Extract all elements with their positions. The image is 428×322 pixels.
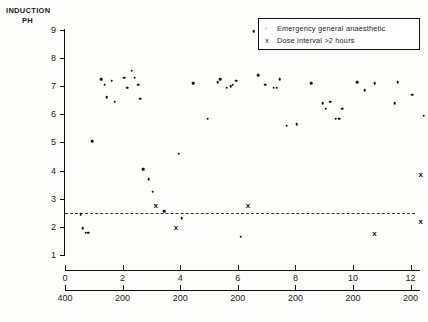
mg-tick-label-4: 200 bbox=[278, 294, 312, 303]
mg-tick-label-3: 200 bbox=[221, 294, 255, 303]
hours-tick-2 bbox=[123, 265, 124, 270]
ph-threshold-line bbox=[65, 213, 415, 214]
hours-tick-10 bbox=[353, 265, 354, 270]
data-point-emergency bbox=[180, 217, 183, 220]
data-point-emergency bbox=[334, 117, 337, 120]
data-point-emergency bbox=[100, 78, 103, 81]
data-point-emergency bbox=[219, 78, 222, 81]
data-point-emergency bbox=[163, 210, 166, 213]
hours-tick-12 bbox=[411, 265, 412, 270]
y-tick-1 bbox=[60, 255, 65, 256]
mg-tick-label-1: 200 bbox=[106, 294, 140, 303]
y-tick-label-4: 4 bbox=[42, 167, 56, 176]
data-point-emergency bbox=[231, 83, 234, 86]
data-point-emergency bbox=[324, 107, 327, 110]
data-point-emergency bbox=[82, 227, 85, 230]
data-point-emergency bbox=[310, 82, 313, 85]
data-point-dose-interval: x bbox=[418, 171, 422, 179]
data-point-emergency bbox=[147, 178, 150, 181]
y-tick-3 bbox=[60, 199, 65, 200]
data-point-emergency bbox=[275, 86, 278, 89]
data-point-emergency bbox=[87, 232, 90, 235]
mg-tick-label-6: 200 bbox=[394, 294, 428, 303]
mg-tick-10 bbox=[353, 285, 354, 290]
hours-tick-8 bbox=[295, 265, 296, 270]
hours-tick-label-6: 6 bbox=[223, 274, 253, 283]
y-tick-label-1: 1 bbox=[42, 251, 56, 260]
mg-tick-0 bbox=[65, 285, 66, 290]
data-point-emergency bbox=[152, 190, 155, 193]
data-point-emergency bbox=[133, 76, 136, 79]
data-point-emergency bbox=[110, 79, 113, 82]
data-point-emergency bbox=[131, 69, 134, 72]
data-point-dose-interval: x bbox=[153, 202, 157, 210]
data-point-emergency bbox=[278, 78, 281, 81]
y-tick-label-3: 3 bbox=[42, 195, 56, 204]
data-point-emergency bbox=[192, 82, 195, 85]
chart-figure: INDUCTION PH · Emergency general anaesth… bbox=[0, 0, 428, 322]
y-tick-4 bbox=[60, 171, 65, 172]
y-tick-label-7: 7 bbox=[42, 82, 56, 91]
hours-tick-label-4: 4 bbox=[165, 274, 195, 283]
hours-tick-6 bbox=[238, 265, 239, 270]
data-point-emergency bbox=[139, 98, 142, 101]
data-point-emergency bbox=[137, 83, 140, 86]
hours-tick-label-12: 12 bbox=[396, 274, 426, 283]
data-point-emergency bbox=[105, 96, 108, 99]
data-point-emergency bbox=[264, 83, 267, 86]
hours-axis-line bbox=[65, 270, 420, 271]
data-point-emergency bbox=[177, 152, 180, 155]
hours-tick-0 bbox=[65, 265, 66, 270]
data-point-emergency bbox=[103, 83, 106, 86]
y-tick-6 bbox=[60, 114, 65, 115]
mg-axis-line bbox=[65, 290, 420, 291]
chart-title-line1: INDUCTION bbox=[6, 6, 50, 15]
data-point-emergency bbox=[226, 86, 229, 89]
data-point-emergency bbox=[252, 30, 255, 33]
data-point-emergency bbox=[285, 124, 288, 127]
legend: · Emergency general anaesthetic x Dose i… bbox=[258, 18, 420, 50]
data-point-emergency bbox=[356, 81, 359, 84]
y-tick-label-5: 5 bbox=[42, 138, 56, 147]
data-point-dose-interval: x bbox=[246, 202, 250, 210]
data-point-emergency bbox=[338, 117, 341, 120]
chart-title-line2: PH bbox=[22, 16, 33, 25]
data-point-emergency bbox=[393, 102, 396, 105]
mg-tick-12 bbox=[411, 285, 412, 290]
data-point-emergency bbox=[239, 235, 242, 238]
data-point-emergency bbox=[422, 114, 425, 117]
data-point-emergency bbox=[329, 100, 332, 103]
data-point-emergency bbox=[363, 89, 366, 92]
data-point-emergency bbox=[113, 100, 116, 103]
legend-symbol-dot: · bbox=[265, 25, 268, 33]
y-tick-label-9: 9 bbox=[42, 26, 56, 35]
data-point-emergency bbox=[216, 81, 219, 84]
y-tick-label-6: 6 bbox=[42, 110, 56, 119]
data-point-emergency bbox=[257, 74, 260, 77]
data-point-dose-interval: x bbox=[372, 230, 376, 238]
data-point-emergency bbox=[396, 81, 399, 84]
mg-tick-6 bbox=[238, 285, 239, 290]
legend-symbol-x: x bbox=[265, 37, 269, 45]
hours-tick-4 bbox=[180, 265, 181, 270]
hours-tick-label-0: 0 bbox=[50, 274, 80, 283]
y-tick-label-8: 8 bbox=[42, 54, 56, 63]
mg-tick-label-5: 200 bbox=[336, 294, 370, 303]
hours-tick-label-8: 8 bbox=[280, 274, 310, 283]
data-point-emergency bbox=[206, 117, 209, 120]
mg-tick-label-2: 200 bbox=[163, 294, 197, 303]
data-point-emergency bbox=[123, 76, 126, 79]
data-point-emergency bbox=[321, 102, 324, 105]
legend-label-dose-interval: Dose interval >2 hours bbox=[277, 37, 355, 45]
y-tick-8 bbox=[60, 58, 65, 59]
mg-tick-2 bbox=[123, 285, 124, 290]
hours-tick-label-2: 2 bbox=[108, 274, 138, 283]
mg-tick-4 bbox=[180, 285, 181, 290]
y-tick-label-2: 2 bbox=[42, 223, 56, 232]
data-point-emergency bbox=[296, 123, 299, 126]
data-point-emergency bbox=[235, 79, 238, 82]
data-point-dose-interval: x bbox=[174, 224, 178, 232]
data-point-emergency bbox=[142, 168, 145, 171]
data-point-emergency bbox=[126, 86, 129, 89]
data-point-emergency bbox=[91, 140, 94, 143]
